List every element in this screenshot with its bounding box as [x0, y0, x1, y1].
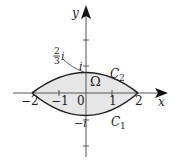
x-tick-label-0: 0: [77, 94, 85, 108]
x-tick-label-2: 2: [135, 94, 143, 108]
svg-text:C: C: [111, 115, 120, 129]
y-tick-label-i: i: [79, 60, 83, 73]
svg-text:C: C: [110, 67, 119, 81]
x-tick-label-neg1: −1: [51, 94, 69, 108]
y-axis-label: y: [71, 6, 79, 20]
x-tick-label-1: 1: [109, 94, 117, 108]
svg-text:3: 3: [54, 56, 60, 66]
complex-plane-diagram: y x −2 −1 0 1 2 i −i Ω C 2 C 1 2 3 i: [0, 0, 177, 162]
svg-text:i: i: [61, 50, 65, 63]
x-axis-label: x: [158, 95, 165, 109]
region-label-omega: Ω: [90, 74, 101, 89]
svg-text:2: 2: [119, 73, 125, 83]
curve-label-c2: C 2: [110, 67, 125, 83]
curve-label-c1: C 1: [111, 115, 126, 131]
annotation-two-thirds-i: 2 3 i: [53, 46, 65, 66]
y-tick-label-neg-i: −i: [74, 117, 87, 130]
svg-text:1: 1: [120, 121, 126, 131]
x-tick-label-neg2: −2: [21, 94, 39, 108]
svg-text:2: 2: [54, 46, 60, 56]
